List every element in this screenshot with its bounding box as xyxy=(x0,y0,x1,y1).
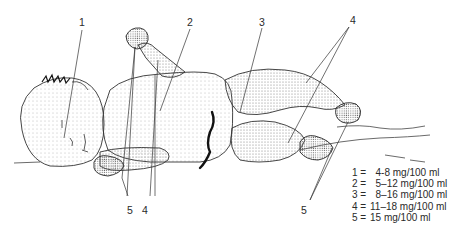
legend-value: 5–12 mg/100 ml xyxy=(370,178,447,189)
legend-value: 4-8 mg/100 ml xyxy=(370,167,439,178)
legend-key: 2 = xyxy=(352,178,370,189)
callout-4-top: 4 xyxy=(350,15,356,26)
legend-key: 3 = xyxy=(352,189,370,200)
legend-value: 11–18 mg/100 ml xyxy=(370,201,447,212)
callout-4-bottom: 4 xyxy=(142,205,148,216)
legend-value: 15 mg/100 ml xyxy=(370,212,431,223)
legend-key: 4 = xyxy=(352,201,370,212)
legend-row-5: 5 = 15 mg/100 ml xyxy=(352,212,447,223)
legend: 1 = 4-8 mg/100 ml 2 = 5–12 mg/100 ml 3 =… xyxy=(352,167,447,223)
legend-row-4: 4 = 11–18 mg/100 ml xyxy=(352,201,447,212)
legend-key: 1 = xyxy=(352,167,370,178)
callout-1: 1 xyxy=(79,17,85,28)
legend-row-1: 1 = 4-8 mg/100 ml xyxy=(352,167,447,178)
lower-foot xyxy=(300,136,333,160)
callout-5-bottom-right: 5 xyxy=(301,205,307,216)
callout-3: 3 xyxy=(259,17,265,28)
raised-arm xyxy=(138,43,185,77)
upper-leg xyxy=(225,69,345,114)
legend-value: 8–16 mg/100 ml xyxy=(370,189,447,200)
callout-5-bottom-left: 5 xyxy=(127,205,133,216)
legend-key: 5 = xyxy=(352,212,370,223)
legend-row-2: 2 = 5–12 mg/100 ml xyxy=(352,178,447,189)
legend-row-3: 3 = 8–16 mg/100 ml xyxy=(352,189,447,200)
callout-2: 2 xyxy=(187,17,193,28)
raised-fist xyxy=(126,28,148,49)
lower-leg xyxy=(231,121,305,162)
upper-foot xyxy=(336,103,361,123)
